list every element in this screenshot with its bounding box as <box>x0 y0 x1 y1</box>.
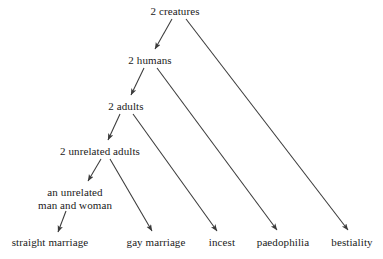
edge-layer <box>0 0 383 259</box>
edge-creatures-humans <box>155 19 172 49</box>
node-paedophilia: paedophilia <box>257 236 309 249</box>
node-label-line-2: man and woman <box>38 199 112 212</box>
node-bestiality: bestiality <box>331 236 372 249</box>
node-2-unrelated-adults: 2 unrelated adults <box>60 145 140 158</box>
edge-humans-paedophilia <box>157 68 277 230</box>
edge-creatures-bestiality <box>186 19 348 230</box>
node-label: incest <box>209 236 235 249</box>
node-label: paedophilia <box>257 236 309 249</box>
edge-adults-incest <box>133 114 217 231</box>
edge-unrelated-gay <box>110 159 152 231</box>
node-label: 2 adults <box>108 100 143 113</box>
node-straight-marriage: straight marriage <box>12 236 89 249</box>
edge-unrelated-manwoman <box>88 159 101 181</box>
node-label: 2 unrelated adults <box>60 145 140 158</box>
edge-adults-unrelated <box>108 114 120 140</box>
node-label: bestiality <box>331 236 372 249</box>
node-label-line-1: an unrelated <box>38 186 112 199</box>
node-gay-marriage: gay marriage <box>127 236 186 249</box>
node-2-humans: 2 humans <box>128 54 171 67</box>
node-incest: incest <box>209 236 235 249</box>
node-an-unrelated-man-and-woman: an unrelated man and woman <box>38 186 112 211</box>
diagram-canvas: 2 creatures 2 humans 2 adults 2 unrelate… <box>0 0 383 259</box>
edge-humans-adults <box>131 68 144 95</box>
edge-manwoman-straight <box>58 211 66 232</box>
node-label: 2 humans <box>128 54 171 67</box>
node-label: gay marriage <box>127 236 186 249</box>
node-label: 2 creatures <box>150 5 199 18</box>
node-2-creatures: 2 creatures <box>150 5 199 18</box>
node-2-adults: 2 adults <box>108 100 143 113</box>
node-label: straight marriage <box>12 236 89 249</box>
